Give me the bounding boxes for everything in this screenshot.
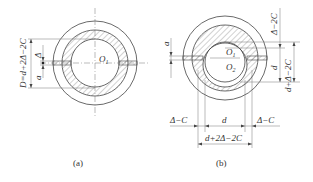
dim-label-left-bottom-b: Δ−C: [169, 115, 188, 125]
dim-label-bottom-total-b: d+2Δ−2C: [205, 133, 243, 143]
bearing-clearance-diagram: O1 D=d+2Δ−2C Δ a (a) O1 O2: [0, 0, 313, 182]
panel-a: O1 D=d+2Δ−2C Δ a: [18, 8, 150, 118]
dim-label-gap-b: a: [161, 41, 171, 46]
dim-label-delta-a: Δ: [33, 53, 43, 59]
split-band-left-b: [183, 56, 203, 60]
center-label-o1-b: O1: [226, 47, 236, 58]
center-label-a: O1: [99, 54, 109, 65]
dim-label-d-vertical-b: d: [269, 65, 279, 70]
caption-a: (a): [73, 158, 83, 168]
dim-label-top-right-b: Δ−2C: [269, 12, 279, 36]
panel-b: O1 O2 Δ−2C d d+Δ−2C a Δ−C: [161, 8, 300, 148]
dim-label-bottom-d-b: d: [222, 115, 227, 125]
dim-label-right-total-b: d+Δ−2C: [283, 59, 293, 92]
dim-label-gap-a: a: [33, 75, 43, 80]
dim-label-D: D=d+2Δ−2C: [18, 37, 28, 89]
caption-b: (b): [216, 158, 227, 168]
dim-label-right-bottom-b: Δ−C: [256, 115, 275, 125]
split-band-right-b: [247, 56, 267, 60]
center-label-o2-b: O2: [226, 62, 236, 73]
